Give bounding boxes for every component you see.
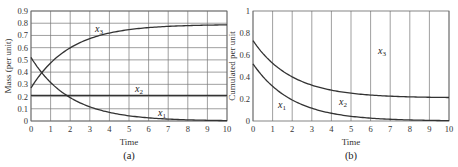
y-tick-label: 0.2 [17,92,28,102]
chart-a-grid [31,11,227,121]
chart-b-x-ticks: 012345678910 [251,124,453,134]
chart-a-curve-label-x3: x3 [94,23,103,36]
figure: 012345678910 00.10.20.30.40.50.60.70.80.… [0,0,458,167]
x-tick-label: 4 [329,124,334,134]
x-tick-label: 10 [223,124,232,134]
chart-b-y-ticks: 00.20.40.60.81 [239,6,250,126]
chart-a-x-ticks: 012345678910 [29,124,231,134]
chart-b: 012345678910 00.20.40.60.81 Time Cumulat… [227,6,453,162]
x-tick-label: 2 [68,124,72,134]
chart-a-y-ticks: 00.10.20.30.40.50.60.70.80.9 [17,6,28,126]
y-tick-label: 0.6 [17,43,28,53]
x-tick-label: 9 [205,124,209,134]
chart-a: 012345678910 00.10.20.30.40.50.60.70.80.… [3,6,231,162]
chart-b-panel-label: (b) [345,150,358,162]
y-tick-label: 0.5 [17,55,28,65]
chart-b-ylabel: Cumulated per unit [227,31,237,101]
x-tick-label: 3 [310,124,314,134]
x-tick-label: 5 [127,124,131,134]
y-tick-label: 0.7 [17,30,28,40]
y-tick-label: 0.1 [17,104,28,114]
x-tick-label: 6 [146,124,150,134]
chart-a-ylabel: Mass (per unit) [3,39,13,94]
x-tick-label: 0 [29,124,33,134]
x-tick-label: 0 [251,124,255,134]
y-tick-label: 1 [246,6,250,16]
chart-a-curve-label-x2: x2 [134,83,143,96]
x-tick-label: 5 [349,124,353,134]
y-tick-label: 0.9 [17,6,28,16]
y-tick-label: 0 [246,116,250,126]
y-tick-label: 0.4 [17,67,28,77]
x-tick-label: 7 [388,124,392,134]
y-tick-label: 0.6 [239,50,250,60]
x-tick-label: 9 [427,124,431,134]
y-tick-label: 0.3 [17,79,28,89]
x-tick-label: 10 [445,124,454,134]
x-tick-label: 7 [166,124,170,134]
x-tick-label: 4 [107,124,112,134]
y-tick-label: 0 [24,116,28,126]
chart-a-xlabel: Time [120,137,139,147]
y-tick-label: 0.8 [239,28,250,38]
x-tick-label: 8 [186,124,190,134]
chart-b-region-label-x3: x3 [377,45,386,58]
chart-b-region-label-x2: x2 [338,96,347,109]
x-tick-label: 3 [88,124,92,134]
x-tick-label: 6 [368,124,372,134]
y-tick-label: 0.4 [239,72,250,82]
chart-b-region-label-x1: x1 [277,99,286,112]
x-tick-label: 1 [270,124,274,134]
y-tick-label: 0.8 [17,18,28,28]
x-tick-label: 2 [290,124,294,134]
x-tick-label: 1 [48,124,52,134]
chart-a-panel-label: (a) [123,150,135,162]
x-tick-label: 8 [408,124,412,134]
chart-b-xlabel: Time [342,137,361,147]
y-tick-label: 0.2 [239,94,250,104]
